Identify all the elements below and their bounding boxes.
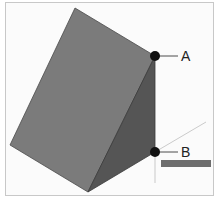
point-label-a: A — [181, 49, 190, 63]
point-label-b: B — [181, 145, 190, 159]
prism-drawing — [0, 0, 221, 205]
snap-point-b-icon[interactable] — [150, 147, 160, 157]
snap-point-a-icon[interactable] — [150, 51, 160, 61]
snap-tooltip — [161, 160, 211, 167]
